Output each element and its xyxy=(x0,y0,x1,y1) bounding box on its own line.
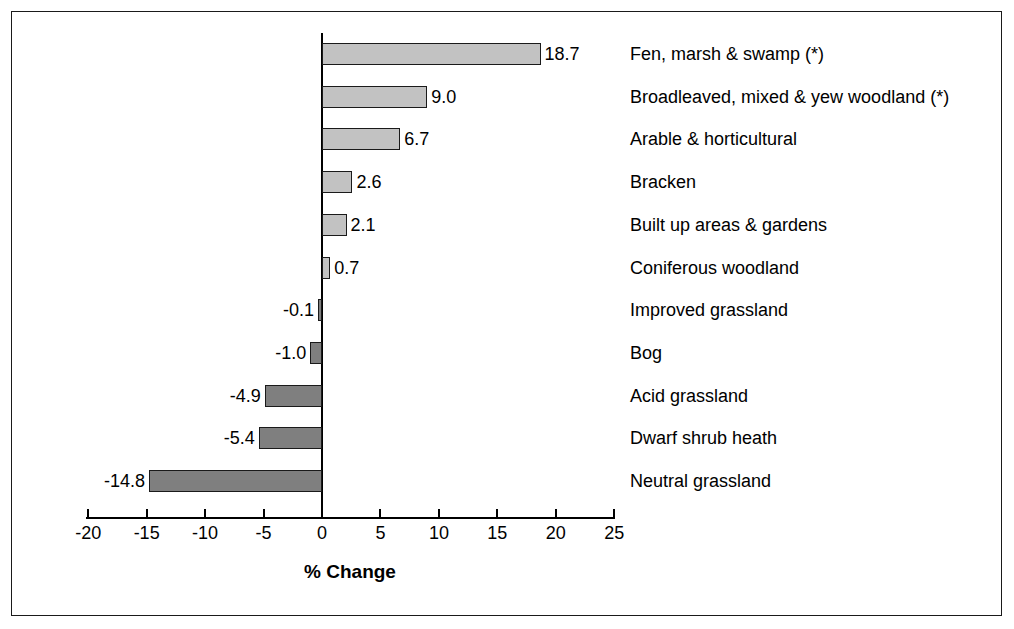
x-axis-tick xyxy=(263,509,265,518)
bar xyxy=(322,214,347,236)
x-axis-line xyxy=(86,517,615,519)
x-axis-tick xyxy=(438,509,440,518)
bar-value-label: -0.1 xyxy=(114,299,319,321)
x-axis-tick-label: 25 xyxy=(584,523,644,544)
bar xyxy=(322,257,330,279)
category-label: Built up areas & gardens xyxy=(630,214,827,236)
bar xyxy=(149,470,322,492)
category-label: Bog xyxy=(630,342,662,364)
x-axis-tick-label: -20 xyxy=(58,523,118,544)
category-label: Neutral grassland xyxy=(630,470,771,492)
bar-value-label: 2.6 xyxy=(356,171,381,193)
x-axis-tick xyxy=(379,509,381,518)
x-axis-tick-label: 15 xyxy=(467,523,527,544)
x-axis-tick-label: 5 xyxy=(350,523,410,544)
bar xyxy=(322,86,427,108)
category-label: Bracken xyxy=(630,171,696,193)
category-label: Fen, marsh & swamp (*) xyxy=(630,43,824,65)
bar xyxy=(259,427,322,449)
category-label: Acid grassland xyxy=(630,385,748,407)
bar-value-label: 2.1 xyxy=(351,214,376,236)
category-label: Broadleaved, mixed & yew woodland (*) xyxy=(630,86,949,108)
x-axis-tick xyxy=(321,509,323,518)
x-axis-tick-label: 0 xyxy=(292,523,352,544)
x-axis-tick xyxy=(204,509,206,518)
x-axis-tick-label: -5 xyxy=(234,523,294,544)
bar-value-label: -14.8 xyxy=(0,470,150,492)
bar-value-label: 0.7 xyxy=(334,257,359,279)
bar xyxy=(322,171,352,193)
category-label: Dwarf shrub heath xyxy=(630,427,777,449)
category-label: Coniferous woodland xyxy=(630,257,799,279)
x-axis-tick-label: -15 xyxy=(117,523,177,544)
x-axis-tick xyxy=(146,509,148,518)
x-axis-tick xyxy=(496,509,498,518)
x-axis-tick-label: 10 xyxy=(409,523,469,544)
bar-value-label: 6.7 xyxy=(404,128,429,150)
x-axis-tick xyxy=(613,509,615,518)
x-axis-tick xyxy=(87,509,89,518)
category-label: Improved grassland xyxy=(630,299,788,321)
x-axis-title: % Change xyxy=(250,561,450,583)
category-label: Arable & horticultural xyxy=(630,128,797,150)
x-axis-tick xyxy=(555,509,557,518)
bar-value-label: 9.0 xyxy=(431,86,456,108)
x-axis-tick-label: 20 xyxy=(526,523,586,544)
bar xyxy=(322,43,541,65)
chart-figure: -20-15-10-50510152025 18.79.06.72.62.10.… xyxy=(0,0,1014,629)
plot-area: -20-15-10-50510152025 18.79.06.72.62.10.… xyxy=(0,0,1014,629)
bar-value-label: 18.7 xyxy=(545,43,580,65)
bar-value-label: -5.4 xyxy=(55,427,260,449)
bar xyxy=(265,385,322,407)
x-axis-tick-label: -10 xyxy=(175,523,235,544)
bar-value-label: -4.9 xyxy=(61,385,266,407)
bar xyxy=(310,342,322,364)
bar-value-label: -1.0 xyxy=(106,342,311,364)
bar xyxy=(322,128,400,150)
